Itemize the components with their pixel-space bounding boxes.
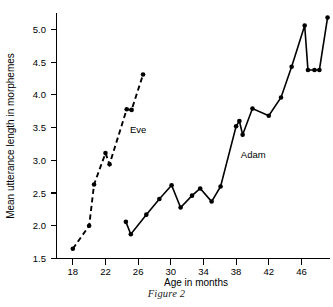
y-tick-label-2.0: 2.0 xyxy=(33,220,46,231)
data-point xyxy=(107,162,112,167)
y-tick-label-5.0: 5.0 xyxy=(33,24,46,35)
data-point xyxy=(129,108,134,113)
data-point xyxy=(306,68,311,73)
data-point xyxy=(71,246,76,251)
series-label-eve: Eve xyxy=(130,124,146,135)
x-tick-label-42: 42 xyxy=(263,266,274,277)
figure-container: 1.52.02.53.03.54.04.55.0 182226303438424… xyxy=(0,0,333,307)
data-point xyxy=(250,106,255,111)
data-point xyxy=(124,220,129,225)
data-point xyxy=(157,197,162,202)
series-label-adam: Adam xyxy=(241,149,266,160)
x-tick-label-30: 30 xyxy=(166,266,177,277)
data-point xyxy=(279,95,284,100)
data-point xyxy=(266,113,271,118)
y-tick-label-3.5: 3.5 xyxy=(33,122,46,133)
x-tick-label-34: 34 xyxy=(198,266,209,277)
y-axis-group: 1.52.02.53.03.54.04.55.0 xyxy=(33,13,57,264)
data-point xyxy=(103,151,108,156)
figure-caption: Figure 2 xyxy=(0,288,333,299)
series-line-adam xyxy=(126,18,328,235)
y-tick-label-2.5: 2.5 xyxy=(33,188,46,199)
series-adam xyxy=(124,15,330,236)
x-axis-ticks xyxy=(73,259,302,265)
x-axis-group: 1822263034384246 xyxy=(57,259,331,278)
y-tick-label-4.5: 4.5 xyxy=(33,57,46,68)
data-point xyxy=(190,193,195,198)
mean-utterance-length-line-chart: 1.52.02.53.03.54.04.55.0 182226303438424… xyxy=(0,0,333,307)
data-point xyxy=(240,132,245,137)
data-point xyxy=(317,68,322,73)
data-point xyxy=(141,72,146,77)
y-tick-label-1.5: 1.5 xyxy=(33,253,46,264)
y-axis-ticks xyxy=(51,29,57,258)
data-point xyxy=(144,212,149,217)
y-tick-label-3.0: 3.0 xyxy=(33,155,46,166)
data-point xyxy=(237,119,242,124)
data-point xyxy=(198,186,203,191)
x-axis-title: Age in months xyxy=(164,277,228,288)
data-point xyxy=(128,232,133,237)
data-point xyxy=(234,124,239,129)
data-point xyxy=(312,68,317,73)
x-tick-label-26: 26 xyxy=(133,266,144,277)
y-tick-label-4.0: 4.0 xyxy=(33,89,46,100)
data-point xyxy=(92,182,97,187)
x-tick-label-18: 18 xyxy=(68,266,79,277)
data-point xyxy=(87,223,92,228)
x-tick-label-38: 38 xyxy=(231,266,242,277)
data-point xyxy=(302,23,307,28)
data-point xyxy=(169,183,174,188)
data-series-layer xyxy=(71,15,330,251)
data-point xyxy=(209,199,214,204)
data-point xyxy=(218,184,223,189)
series-line-eve xyxy=(73,75,143,249)
data-point xyxy=(289,64,294,69)
x-tick-label-46: 46 xyxy=(296,266,307,277)
y-axis-tick-labels: 1.52.02.53.03.54.04.55.0 xyxy=(33,24,46,264)
y-axis-title: Mean utterance length in morphemes xyxy=(5,53,16,219)
data-point xyxy=(325,15,330,20)
data-point xyxy=(124,107,129,112)
x-axis-tick-labels: 1822263034384246 xyxy=(68,266,307,277)
series-eve xyxy=(71,72,146,251)
x-tick-label-22: 22 xyxy=(100,266,111,277)
data-point xyxy=(178,205,183,210)
